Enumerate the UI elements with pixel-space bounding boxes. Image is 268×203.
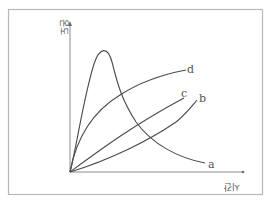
y-axis-label: 온도	[59, 19, 69, 35]
x-axis-end-icon	[242, 171, 245, 174]
diagram-frame	[9, 10, 263, 195]
curve-label-d: d	[187, 63, 194, 76]
curve-b	[70, 100, 197, 172]
curve-a	[70, 51, 205, 172]
curve-c	[70, 98, 184, 172]
curve-label-c: c	[181, 87, 187, 100]
curve-d	[70, 70, 186, 172]
diagram-canvas: 온도 시간 a b c d	[0, 0, 268, 203]
curve-label-b: b	[199, 92, 206, 105]
x-axis-label: 시간	[224, 182, 240, 192]
curve-label-a: a	[208, 158, 215, 171]
